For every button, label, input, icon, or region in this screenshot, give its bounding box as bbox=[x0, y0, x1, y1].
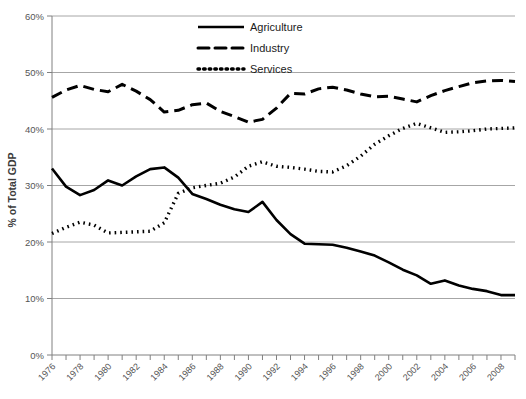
line-chart: 0%10%20%30%40%50%60% 1976197819801982198… bbox=[0, 0, 526, 399]
x-tick-label: 2008 bbox=[485, 361, 506, 382]
x-tick-label: 2004 bbox=[429, 361, 450, 382]
x-tick-label: 1992 bbox=[261, 361, 282, 382]
x-tick-label: 1986 bbox=[176, 361, 197, 382]
chart-legend: AgricultureIndustryServices bbox=[198, 21, 303, 75]
x-tick-label: 2000 bbox=[373, 361, 394, 382]
y-axis-title: % of Total GDP bbox=[6, 152, 18, 227]
data-series bbox=[52, 80, 515, 295]
y-tick-label: 60% bbox=[25, 11, 45, 22]
series-line-services bbox=[52, 123, 515, 233]
x-tick-label: 1982 bbox=[120, 361, 141, 382]
y-tick-label: 10% bbox=[25, 293, 45, 304]
legend-label-services: Services bbox=[250, 63, 293, 75]
x-tick-label: 2006 bbox=[457, 361, 478, 382]
x-axis-tick-labels: 1976197819801982198419861988199019921994… bbox=[36, 361, 506, 382]
y-tick-label: 20% bbox=[25, 237, 45, 248]
x-tick-label: 1980 bbox=[92, 361, 113, 382]
x-tick-label: 1976 bbox=[36, 361, 57, 382]
x-tick-label: 1978 bbox=[64, 361, 85, 382]
y-tick-label: 40% bbox=[25, 124, 45, 135]
x-tick-label: 1984 bbox=[148, 361, 169, 382]
y-tick-label: 30% bbox=[25, 180, 45, 191]
x-tick-label: 1996 bbox=[317, 361, 338, 382]
chart-container: 0%10%20%30%40%50%60% 1976197819801982198… bbox=[0, 0, 526, 399]
x-tick-label: 1998 bbox=[345, 361, 366, 382]
x-tick-label: 1994 bbox=[289, 361, 310, 382]
legend-label-agriculture: Agriculture bbox=[250, 21, 303, 33]
y-axis-tick-labels: 0%10%20%30%40%50%60% bbox=[25, 11, 45, 361]
x-tick-label: 1990 bbox=[233, 361, 254, 382]
y-tick-label: 0% bbox=[30, 350, 44, 361]
gridlines bbox=[52, 16, 515, 299]
legend-label-industry: Industry bbox=[250, 42, 290, 54]
x-tick-label: 2002 bbox=[401, 361, 422, 382]
series-line-industry bbox=[52, 80, 515, 122]
x-tick-label: 1988 bbox=[205, 361, 226, 382]
y-tick-label: 50% bbox=[25, 67, 45, 78]
